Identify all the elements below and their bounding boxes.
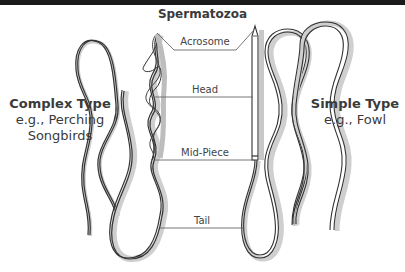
- label-midpiece: Mid-Piece: [155, 147, 255, 158]
- complex-type-example-2: Songbirds: [0, 128, 120, 144]
- diagram-title: Spermatozoa: [0, 7, 405, 21]
- simple-type-example-1: e.g., Fowl: [295, 112, 405, 128]
- simple-type-name: Simple Type: [295, 96, 405, 112]
- simple-type-caption: Simple Type e.g., Fowl: [295, 96, 405, 128]
- complex-type-caption: Complex Type e.g., Perching Songbirds: [0, 96, 120, 144]
- label-head: Head: [155, 84, 255, 95]
- label-tail: Tail: [152, 215, 252, 226]
- leader-lines: [155, 30, 254, 228]
- complex-type-name: Complex Type: [0, 96, 120, 112]
- label-acrosome: Acrosome: [155, 36, 255, 47]
- complex-type-example-1: e.g., Perching: [0, 112, 120, 128]
